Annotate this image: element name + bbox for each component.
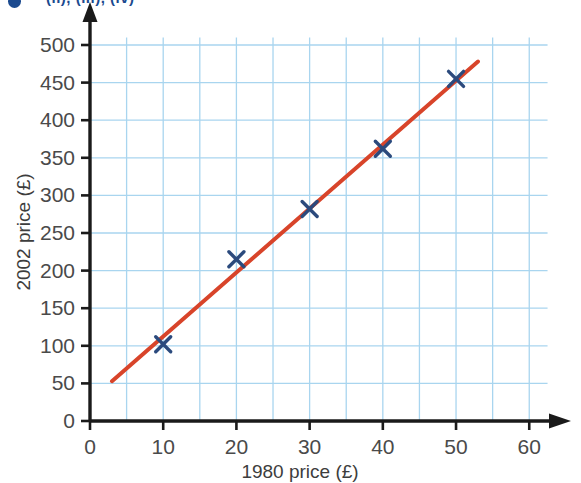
x-axis-tick-label: 60 [518, 435, 541, 458]
y-axis-tick-label: 50 [52, 371, 75, 394]
axis-tick-labels: 0102030405060050100150200250300350400450… [40, 33, 541, 458]
x-axis-arrow-icon [549, 414, 571, 429]
y-axis-tick-label: 450 [40, 71, 75, 94]
scatter-plot: 0102030405060050100150200250300350400450… [0, 0, 581, 483]
trend-line [112, 62, 478, 382]
y-axis-tick-label: 100 [40, 334, 75, 357]
y-axis-tick-label: 250 [40, 221, 75, 244]
x-axis-tick-label: 40 [371, 435, 394, 458]
y-axis-arrow-icon [83, 2, 98, 22]
y-axis-tick-label: 400 [40, 108, 75, 131]
y-axis-tick-label: 150 [40, 296, 75, 319]
y-axis-tick-label: 500 [40, 33, 75, 56]
y-axis-tick-label: 300 [40, 183, 75, 206]
axis-ticks [81, 45, 529, 430]
grid-lines [90, 37, 548, 421]
x-axis-tick-label: 30 [298, 435, 321, 458]
y-axis-title: 2002 price (£) [13, 173, 34, 290]
y-axis-tick-label: 200 [40, 259, 75, 282]
x-axis-tick-label: 50 [444, 435, 467, 458]
trend-line-segment [112, 62, 478, 382]
chart-figure: (ii), (iii), (iv) 0102030405060050100150… [0, 0, 581, 483]
y-axis-tick-label: 0 [63, 409, 75, 432]
x-axis-tick-label: 0 [84, 435, 96, 458]
axes [83, 2, 572, 429]
y-axis-tick-label: 350 [40, 146, 75, 169]
x-axis-tick-label: 20 [225, 435, 248, 458]
x-axis-tick-label: 10 [152, 435, 175, 458]
x-axis-title: 1980 price (£) [241, 461, 358, 482]
